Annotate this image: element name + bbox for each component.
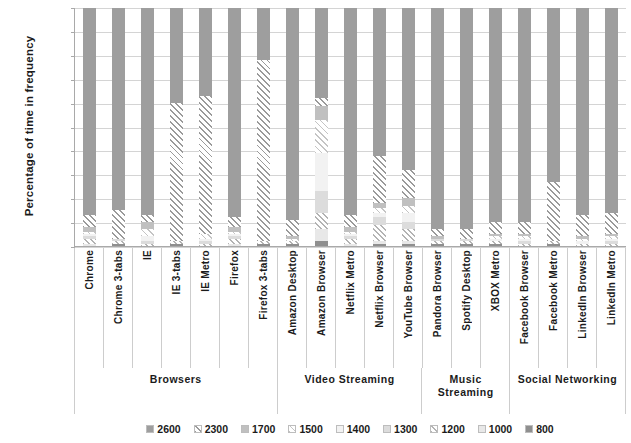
x-axis-category-label: Amazon Browser (316, 250, 327, 336)
legend-item[interactable]: 1000 (478, 423, 512, 435)
x-axis-label-slot: Firefox (220, 248, 249, 368)
legend-swatch (430, 425, 438, 433)
bar-segment (605, 213, 618, 234)
stacked-bar[interactable] (547, 8, 560, 246)
bar-segment (460, 8, 473, 229)
x-axis-category-label: IE (142, 250, 153, 260)
bar-segment (431, 229, 444, 236)
legend-swatch (241, 425, 249, 433)
bar-slot (394, 8, 423, 246)
bar-slot (162, 8, 191, 246)
bar-segment (547, 8, 560, 182)
stacked-bar[interactable] (605, 8, 618, 246)
stacked-bar[interactable] (373, 8, 386, 246)
x-axis-category-label: Netflix Metro (345, 250, 356, 314)
bar-slot (307, 8, 336, 246)
bar-segment (170, 244, 183, 246)
bar-segment (518, 222, 531, 234)
bar-segment (576, 244, 589, 246)
stacked-bar[interactable] (112, 8, 125, 246)
legend-item[interactable]: 1200 (430, 423, 464, 435)
legend-item[interactable]: 2300 (194, 423, 228, 435)
legend-item[interactable]: 2600 (146, 423, 180, 435)
bar-segment (605, 244, 618, 246)
x-axis-category-label: Facebook Browser (519, 250, 530, 344)
stacked-bar[interactable] (170, 8, 183, 246)
bar-segment (489, 244, 502, 246)
bar-segment (141, 244, 154, 246)
x-axis-group-label: Browsers (150, 373, 202, 386)
x-axis-category-labels: ChromeChrome 3-tabsIEIE 3-tabsIE MetroFi… (74, 248, 626, 368)
y-axis-title: Percentage of time in frequency (23, 1, 35, 251)
x-axis-group: Video Streaming (278, 368, 423, 414)
x-axis-group: Browsers (74, 368, 278, 414)
x-axis-label-slot: IE 3-tabs (162, 248, 191, 368)
bar-slot (481, 8, 510, 246)
stacked-bar[interactable] (199, 8, 212, 246)
x-axis-label-slot: Firefox 3-tabs (249, 248, 278, 368)
stacked-bar[interactable] (83, 8, 96, 246)
x-axis-group-labels: BrowsersVideo StreamingMusic StreamingSo… (74, 368, 626, 414)
bar-segment (489, 8, 502, 222)
bar-slot (278, 8, 307, 246)
legend-item[interactable]: 1300 (383, 423, 417, 435)
stacked-bar[interactable] (344, 8, 357, 246)
bar-segment (460, 244, 473, 246)
stacked-bar[interactable] (576, 8, 589, 246)
stacked-bar[interactable] (286, 8, 299, 246)
stacked-bar[interactable] (518, 8, 531, 246)
legend-swatch (525, 425, 533, 433)
x-axis-label-slot: IE Metro (191, 248, 220, 368)
x-axis-label-slot: Chrome 3-tabs (104, 248, 133, 368)
legend-item[interactable]: 1400 (336, 423, 370, 435)
bar-segment (373, 156, 386, 204)
legend-item[interactable]: 1500 (288, 423, 322, 435)
stacked-bar[interactable] (315, 8, 328, 246)
stacked-bar[interactable] (460, 8, 473, 246)
bar-segment (170, 8, 183, 103)
bar-slot (220, 8, 249, 246)
bar-segment (518, 244, 531, 246)
stacked-bar[interactable] (431, 8, 444, 246)
x-axis-category-label: LinkedIn Metro (606, 250, 617, 325)
bar-segment (373, 217, 386, 224)
bar-segment (605, 8, 618, 213)
x-axis-category-label: Firefox (229, 250, 240, 285)
bar-segment (112, 210, 125, 239)
stacked-bar[interactable] (257, 8, 270, 246)
bar-segment (315, 153, 328, 191)
bar-segment (199, 8, 212, 96)
legend-item[interactable]: 800 (525, 423, 554, 435)
x-axis-label-slot: XBOX Metro (481, 248, 510, 368)
x-axis-group-label: Social Networking (518, 373, 618, 386)
legend-swatch (336, 425, 344, 433)
x-axis-category-label: Pandora Browser (432, 250, 443, 337)
legend-item[interactable]: 1700 (241, 423, 275, 435)
bar-slot (452, 8, 481, 246)
legend-swatch (288, 425, 296, 433)
stacked-bar[interactable] (489, 8, 502, 246)
bar-segment (373, 225, 386, 242)
bar-segment (199, 96, 212, 234)
stacked-bar[interactable] (402, 8, 415, 246)
x-axis-label-slot: Amazon Desktop (278, 248, 307, 368)
bar-segment (518, 8, 531, 222)
bar-slot (539, 8, 568, 246)
bar-slot (133, 8, 162, 246)
bar-segment (257, 244, 270, 246)
bar-segment (402, 8, 415, 170)
bar-segment (286, 8, 299, 220)
x-axis-label-slot: LinkedIn Browser (568, 248, 597, 368)
bar-segment (257, 8, 270, 60)
x-axis-category-label: Firefox 3-tabs (258, 250, 269, 320)
bar-segment (402, 244, 415, 246)
x-axis-group: Social Networking (510, 368, 626, 414)
x-axis-category-label: Chrome (84, 250, 95, 290)
bar-segment (199, 244, 212, 246)
stacked-bar[interactable] (141, 8, 154, 246)
bar-segment (576, 8, 589, 215)
chart-root: Percentage of time in frequency 100%90%8… (0, 0, 631, 443)
stacked-bar[interactable] (228, 8, 241, 246)
bar-segment (402, 206, 415, 213)
bar-segment (141, 229, 154, 236)
